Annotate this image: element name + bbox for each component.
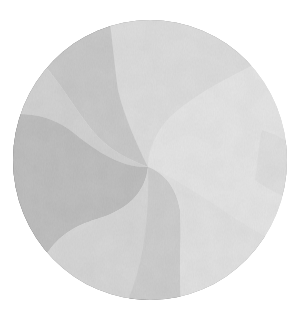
fabric-swirl-image — [0, 0, 298, 317]
image-stage: Circular grayscale fabric swirl with cur… — [0, 0, 298, 317]
weave-layer — [0, 0, 298, 317]
